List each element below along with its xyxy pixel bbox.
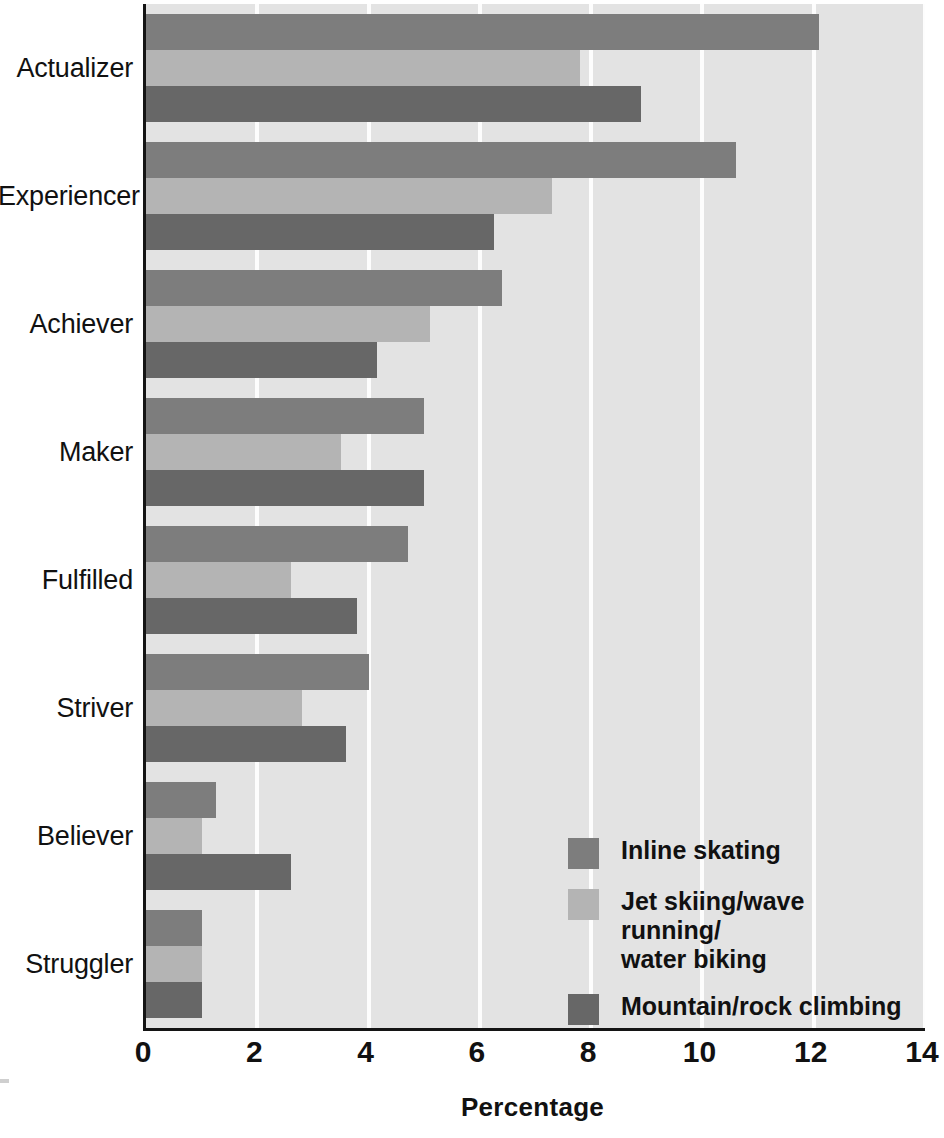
bar [146, 142, 736, 178]
bar-group [146, 142, 925, 250]
category-label: Experiencer [0, 181, 133, 211]
legend-swatch [568, 994, 599, 1025]
bar [146, 178, 552, 214]
legend-item: Jet skiing/wave running/ water biking [568, 887, 908, 974]
x-tick-label: 6 [447, 1035, 507, 1069]
bar [146, 982, 202, 1018]
x-tick-label: 0 [113, 1035, 173, 1069]
bar-group [146, 526, 925, 634]
category-label: Striver [0, 693, 133, 723]
bar [146, 910, 202, 946]
bar [146, 654, 369, 690]
bar [146, 342, 377, 378]
bar [146, 562, 291, 598]
bar-group [146, 270, 925, 378]
category-label: Struggler [0, 949, 133, 979]
category-label: Achiever [0, 309, 133, 339]
bar [146, 50, 580, 86]
category-label: Actualizer [0, 53, 133, 83]
bar-group [146, 398, 925, 506]
category-label: Fulfilled [0, 565, 133, 595]
category-axis-labels: ActualizerExperiencerAchieverMakerFulfil… [0, 4, 133, 1028]
x-tick-label: 4 [336, 1035, 396, 1069]
legend-label: Jet skiing/wave running/ water biking [621, 887, 908, 974]
bar-group [146, 654, 925, 762]
bar [146, 946, 202, 982]
legend-item: Mountain/rock climbing [568, 992, 908, 1025]
legend-label: Mountain/rock climbing [621, 992, 902, 1021]
bar [146, 818, 202, 854]
legend-item: Inline skating [568, 836, 908, 869]
x-tick-label: 2 [224, 1035, 284, 1069]
legend-label: Inline skating [621, 836, 781, 865]
legend-swatch [568, 838, 599, 869]
bar [146, 726, 346, 762]
legend: Inline skatingJet skiing/wave running/ w… [568, 836, 908, 1043]
x-axis-title: Percentage [143, 1092, 922, 1123]
bar [146, 214, 494, 250]
bar [146, 782, 216, 818]
bar-group [146, 14, 925, 122]
bar [146, 470, 424, 506]
bar [146, 14, 819, 50]
bar [146, 854, 291, 890]
bar [146, 690, 302, 726]
bar [146, 306, 430, 342]
bar [146, 86, 641, 122]
category-label: Maker [0, 437, 133, 467]
bar [146, 434, 341, 470]
scan-edge-artifact [0, 1079, 9, 1083]
bar [146, 398, 424, 434]
bar [146, 526, 408, 562]
bar [146, 598, 357, 634]
bar [146, 270, 502, 306]
legend-swatch [568, 889, 599, 920]
category-label: Believer [0, 821, 133, 851]
